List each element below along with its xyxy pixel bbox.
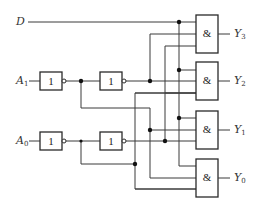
- input-label-d: D: [16, 16, 25, 27]
- label-subscript: 0: [24, 140, 28, 148]
- inverter-bubble-icon: [62, 139, 66, 143]
- input-label-a1: A1: [16, 75, 28, 88]
- inverter-bubble-icon: [122, 79, 126, 83]
- junction-dot: [133, 162, 137, 166]
- output-label-y2: Y2: [234, 75, 246, 88]
- label-subscript: 3: [241, 33, 245, 41]
- junction-dot: [79, 79, 83, 83]
- junction-dot: [148, 79, 152, 83]
- output-label-y0: Y0: [234, 172, 246, 185]
- circuit-canvas: [0, 0, 262, 208]
- and-symbol: &: [196, 124, 218, 135]
- output-label-y3: Y3: [234, 28, 246, 41]
- inverter-bubble-icon: [122, 139, 126, 143]
- inverter-symbol: 1: [40, 136, 62, 147]
- and-symbol: &: [196, 75, 218, 86]
- inverter-bubble-icon: [62, 79, 66, 83]
- junction-dot: [163, 139, 167, 143]
- output-label-y1: Y1: [234, 124, 246, 137]
- junction-dot: [148, 128, 152, 132]
- inverter-symbol: 1: [100, 136, 122, 147]
- label-subscript: 1: [241, 129, 245, 137]
- label-subscript: 1: [24, 80, 28, 88]
- label-text: A: [16, 74, 24, 87]
- input-label-a0: A0: [16, 135, 28, 148]
- inverter-symbol: 1: [40, 76, 62, 87]
- junction-dot: [177, 116, 181, 120]
- and-symbol: &: [196, 28, 218, 39]
- and-symbol: &: [196, 172, 218, 183]
- label-subscript: 2: [241, 80, 245, 88]
- inverter-symbol: 1: [100, 76, 122, 87]
- junction-dot: [177, 20, 181, 24]
- label-text: D: [16, 15, 25, 28]
- junction-dot: [177, 68, 181, 72]
- junction-dot: [79, 139, 82, 142]
- label-subscript: 0: [241, 177, 245, 185]
- label-text: A: [16, 134, 24, 147]
